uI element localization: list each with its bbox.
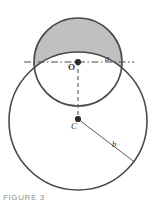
radius-b-line (78, 119, 135, 162)
geometry-diagram (0, 0, 156, 203)
point-o-marker (75, 59, 81, 65)
label-radius-b: b (112, 140, 116, 149)
figure-container: O a C b FIGURE 3 (0, 0, 156, 203)
label-radius-a: a (105, 54, 109, 63)
label-large-circle-center: C (71, 122, 77, 131)
figure-caption: FIGURE 3 (3, 193, 45, 202)
label-small-circle-center: O (68, 63, 75, 72)
